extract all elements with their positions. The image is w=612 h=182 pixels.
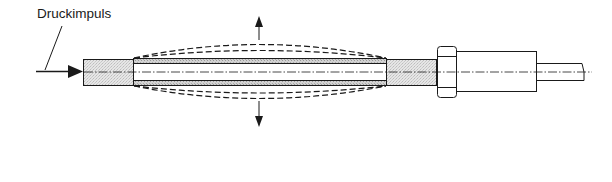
leader-line: [45, 26, 62, 70]
dashed-curve-bottom-outer: [134, 86, 386, 99]
pressure-pulse-diagram: Druckimpuls: [0, 0, 612, 182]
tube-wall-bottom: [134, 81, 386, 85]
arrow-up-icon: [255, 16, 263, 40]
outlet-stub: [387, 60, 437, 86]
nozzle-body: [457, 52, 537, 92]
input-arrow-icon: [36, 65, 83, 78]
inlet-stub: [84, 60, 134, 86]
tube-wall-top: [134, 59, 386, 63]
pressure-pulse-label: Druckimpuls: [37, 7, 111, 21]
arrow-down-icon: [255, 101, 263, 127]
diagram-canvas: [0, 0, 612, 182]
dashed-curve-top-outer: [134, 45, 386, 59]
